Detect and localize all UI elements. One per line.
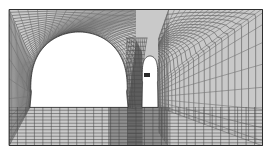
finite-element-mesh-canvas [0,0,272,156]
fem-mesh-figure [0,0,272,156]
